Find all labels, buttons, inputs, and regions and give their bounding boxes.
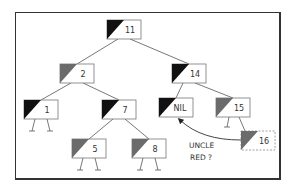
tree-edge	[176, 83, 183, 98]
tree-edge	[41, 83, 71, 100]
node-label: 2	[80, 70, 85, 79]
tree-node-15: 15	[216, 98, 250, 117]
diagram-canvas: 1121417NIL155816 UNCLE RED ?	[0, 0, 295, 188]
uncle-annotation: UNCLE RED ?	[180, 120, 241, 162]
tree-node-14: 14	[172, 64, 206, 83]
node-label: 1	[44, 106, 49, 115]
tree-edge	[195, 83, 233, 98]
tree-node-8: 8	[132, 139, 166, 158]
uncle-label-line1: UNCLE	[189, 141, 215, 150]
tree-nodes: 1121417NIL155816	[24, 20, 275, 158]
tree-edge	[77, 39, 118, 64]
tree-node-16: 16	[241, 131, 275, 150]
tree-node-5: 5	[72, 139, 106, 158]
node-label: 15	[234, 104, 244, 113]
tree-node-2: 2	[60, 64, 94, 83]
tree-edge	[83, 83, 119, 100]
tree-edge	[125, 119, 149, 139]
uncle-arrow-icon	[180, 120, 241, 140]
node-label: 5	[92, 145, 97, 154]
tree-edge	[130, 39, 189, 64]
tree-node-1: 1	[24, 100, 58, 119]
tree-node-7: 7	[102, 100, 136, 119]
red-color-marker-icon	[241, 131, 258, 150]
node-label: 7	[122, 106, 127, 115]
node-label: 16	[259, 137, 269, 146]
node-label: 14	[190, 70, 200, 79]
node-label: NIL	[174, 104, 187, 113]
tree-edge	[89, 119, 113, 139]
node-label: 8	[152, 145, 157, 154]
tree-node-nil: NIL	[159, 98, 193, 117]
node-label: 11	[125, 26, 135, 35]
uncle-label-line2: RED ?	[190, 153, 212, 162]
tree-node-11: 11	[107, 20, 141, 39]
tree-edge	[239, 117, 245, 131]
tree-edges	[41, 39, 245, 139]
tree-svg: 1121417NIL155816 UNCLE RED ?	[0, 0, 295, 188]
